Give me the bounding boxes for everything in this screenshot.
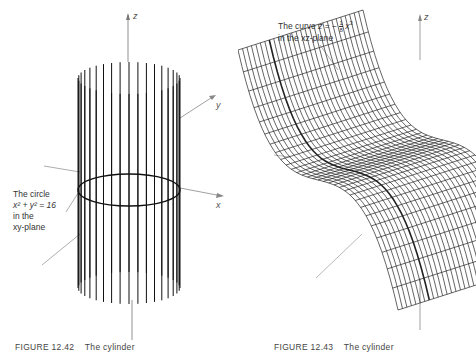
z-axis-label: z: [424, 12, 429, 22]
figure-title: The cylinder: [85, 342, 135, 352]
denominator: 8: [339, 27, 342, 33]
figure-number: FIGURE 12.42: [15, 342, 74, 352]
exponent: 3: [349, 20, 352, 26]
figure-title: The cylinder: [344, 342, 394, 352]
surface-mesh-drawing: [238, 0, 476, 356]
numerator: 1: [339, 20, 342, 27]
figure-cylinder: z y x The circle x² + y² = 16 in the xy-…: [0, 0, 238, 356]
figure-number: FIGURE 12.43: [274, 342, 333, 352]
x-axis-label: x: [216, 200, 221, 210]
annotation-line: xy-plane: [13, 222, 56, 233]
y-axis-label: y: [216, 100, 221, 110]
cylinder-drawing: [0, 0, 238, 356]
annotation-line: in the xz-plane: [278, 33, 353, 44]
annotation-text: The curve: [278, 21, 318, 31]
equals: = −: [322, 21, 339, 31]
annotation-equation: x² + y² = 16: [13, 200, 56, 211]
figure-caption: FIGURE 12.43 The cylinder: [274, 342, 394, 352]
annotation-line: in the: [13, 211, 56, 222]
fraction: 18: [339, 20, 342, 33]
circle-annotation: The circle x² + y² = 16 in the xy-plane: [13, 189, 56, 233]
figure-caption: FIGURE 12.42 The cylinder: [15, 342, 135, 352]
z-axis-label: z: [133, 11, 138, 21]
annotation-line: The circle: [13, 189, 56, 200]
curve-annotation: The curve z = − 18 x3 in the xz-plane: [278, 18, 353, 44]
figure-cubic-surface: z The curve z = − 18 x3 in the xz-plane …: [238, 0, 476, 356]
